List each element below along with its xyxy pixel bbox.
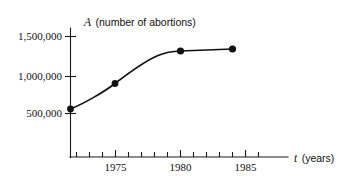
- x-axis-variable: t: [294, 152, 297, 164]
- x-tick-label-1975: 1975: [93, 162, 138, 173]
- x-axis-unit: (years): [302, 152, 335, 164]
- data-curve: [71, 49, 233, 109]
- y-tick-label-1000000: 1,000,000: [0, 71, 62, 82]
- abortions-line-chart: 1,500,000 1,000,000 500,000 1975 1980 19…: [0, 0, 345, 187]
- x-axis-ticks: [77, 150, 259, 157]
- y-axis-unit: (number of abortions): [95, 16, 195, 28]
- y-tick-label-500000: 500,000: [0, 108, 62, 119]
- x-tick-label-1980: 1980: [158, 162, 203, 173]
- data-point-1976: [112, 80, 119, 87]
- data-point-1972: [67, 106, 74, 113]
- data-point-1984: [229, 45, 236, 52]
- data-point-1980: [177, 47, 184, 54]
- y-axis-variable: A: [84, 16, 91, 28]
- x-tick-label-1985: 1985: [223, 162, 268, 173]
- data-point-markers: [67, 45, 236, 112]
- x-axis-title: t (years): [294, 149, 334, 165]
- y-tick-label-1500000: 1,500,000: [0, 31, 62, 42]
- y-axis-title: A (number of abortions): [84, 13, 196, 29]
